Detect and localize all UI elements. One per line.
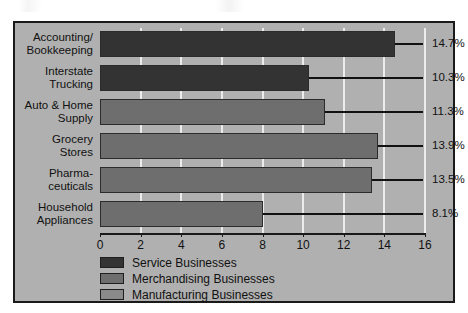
value-leader-line — [325, 111, 423, 113]
legend-swatch — [100, 289, 124, 300]
value-label: 10.3% — [432, 71, 465, 83]
axis-tick — [303, 233, 304, 237]
axis-tick-label: 0 — [97, 238, 104, 252]
axis-tick — [222, 233, 223, 237]
bar-row: Interstate Trucking10.3% — [100, 65, 425, 91]
value-leader-line — [263, 213, 424, 215]
value-label: 13.5% — [432, 173, 465, 185]
value-leader-line — [309, 77, 423, 79]
category-label: Auto & Home Supply — [0, 99, 93, 124]
legend: Service BusinessesMerchandising Business… — [100, 255, 275, 303]
axis-tick — [344, 233, 345, 237]
value-label: 8.1% — [432, 207, 458, 219]
category-label: Accounting/ Bookkeeping — [0, 31, 93, 56]
value-label: 13.9% — [432, 139, 465, 151]
bar — [100, 133, 378, 159]
category-label: Pharma- ceuticals — [0, 167, 93, 192]
value-leader-line — [395, 43, 423, 45]
axis-tick — [100, 233, 101, 237]
category-label: Household Appliances — [0, 201, 93, 226]
bar — [100, 201, 263, 227]
legend-swatch — [100, 273, 124, 284]
axis-tick-label: 14 — [378, 238, 391, 252]
axis-tick — [263, 233, 264, 237]
axis-tick — [425, 233, 426, 237]
axis-tick-label: 8 — [259, 238, 266, 252]
category-label: Grocery Stores — [0, 133, 93, 158]
legend-item: Manufacturing Businesses — [100, 287, 275, 302]
axis-tick-label: 16 — [418, 238, 431, 252]
axis-tick-label: 6 — [219, 238, 226, 252]
axis-tick-label: 4 — [178, 238, 185, 252]
bar-row: Household Appliances8.1% — [100, 201, 425, 227]
axis-tick — [181, 233, 182, 237]
value-label: 11.3% — [432, 105, 464, 117]
chart-figure: Accounting/ Bookkeeping14.7%Interstate T… — [13, 21, 455, 303]
bar-row: Auto & Home Supply11.3% — [100, 99, 425, 125]
legend-swatch — [100, 257, 124, 268]
x-axis: 0246810121416 — [100, 233, 425, 255]
axis-tick-label: 10 — [296, 238, 309, 252]
legend-label: Service Businesses — [132, 256, 237, 270]
value-leader-line — [372, 179, 423, 181]
axis-tick — [384, 233, 385, 237]
scan-artifact-top-strip — [0, 0, 468, 12]
bar — [100, 167, 372, 193]
bar-row: Grocery Stores13.9% — [100, 133, 425, 159]
legend-item: Service Businesses — [100, 255, 275, 270]
axis-tick-label: 2 — [137, 238, 144, 252]
bar — [100, 31, 395, 57]
value-label: 14.7% — [432, 37, 465, 49]
category-label: Interstate Trucking — [0, 65, 93, 90]
legend-label: Merchandising Businesses — [132, 272, 275, 286]
plot-area: Accounting/ Bookkeeping14.7%Interstate T… — [100, 28, 425, 233]
value-leader-line — [378, 145, 423, 147]
bar — [100, 65, 309, 91]
bar-row: Pharma- ceuticals13.5% — [100, 167, 425, 193]
legend-label: Manufacturing Businesses — [132, 288, 273, 302]
axis-tick-label: 12 — [337, 238, 350, 252]
axis-tick — [141, 233, 142, 237]
bar-row: Accounting/ Bookkeeping14.7% — [100, 31, 425, 57]
legend-item: Merchandising Businesses — [100, 271, 275, 286]
bar — [100, 99, 325, 125]
